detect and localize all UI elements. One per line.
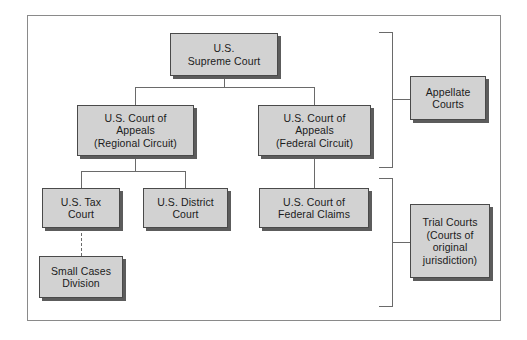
node-trial-courts-line4: jurisdiction) [423,254,477,266]
node-tax-court-text: U.S. Tax Court [58,196,104,221]
node-small-cases-division-text: Small Cases Division [48,265,114,290]
node-supreme-court-text: U.S. Supreme Court [185,42,264,67]
node-appeals-federal-line2: Appeals [295,124,334,136]
node-federal-claims[interactable]: U.S. Court of Federal Claims [259,188,369,228]
node-trial-courts[interactable]: Trial Courts (Courts of original jurisdi… [410,204,490,278]
node-trial-courts-line2: (Courts of [426,229,473,241]
node-appellate-courts-line2: Courts [432,98,464,110]
connector-federal-to-claims [314,156,315,188]
connector-to-tax-court [81,171,82,188]
node-federal-claims-text: U.S. Court of Federal Claims [275,196,353,221]
node-federal-claims-line1: U.S. Court of [283,196,345,208]
connector-appeals-split-bar [135,87,314,88]
node-supreme-court-line2: Supreme Court [188,55,261,67]
node-supreme-court[interactable]: U.S. Supreme Court [170,33,278,76]
bracket-appellate [379,32,393,168]
node-appeals-regional-line3: (Regional Circuit) [94,137,177,149]
bracket-appellate-stem [393,99,410,100]
node-trial-courts-line3: original [433,241,468,253]
node-appeals-regional-line1: U.S. Court of [104,112,166,124]
node-appeals-regional-text: U.S. Court of Appeals (Regional Circuit) [91,112,180,150]
node-district-court[interactable]: U.S. District Court [143,188,228,228]
court-hierarchy-diagram: U.S. Supreme Court U.S. Court of Appeals… [0,0,527,340]
node-appeals-regional-line2: Appeals [116,124,155,136]
node-tax-court-line2: Court [68,208,94,220]
node-appeals-federal-text: U.S. Court of Appeals (Federal Circuit) [273,112,356,150]
connector-tax-to-small-cases [81,228,82,256]
node-appeals-federal[interactable]: U.S. Court of Appeals (Federal Circuit) [258,105,371,156]
connector-regional-to-split [135,156,136,171]
node-federal-claims-line2: Federal Claims [278,208,350,220]
node-tax-court[interactable]: U.S. Tax Court [42,188,120,228]
node-district-court-line2: Court [172,208,198,220]
node-trial-courts-line1: Trial Courts [422,216,477,228]
bracket-trial [379,178,393,307]
node-appellate-courts[interactable]: Appellate Courts [410,76,486,120]
connector-to-federal-appeals [314,87,315,105]
node-appeals-federal-line3: (Federal Circuit) [276,137,353,149]
node-appeals-regional[interactable]: U.S. Court of Appeals (Regional Circuit) [77,105,194,156]
diagram-frame: U.S. Supreme Court U.S. Court of Appeals… [27,15,501,321]
node-appeals-federal-line1: U.S. Court of [284,112,346,124]
node-appellate-courts-line1: Appellate [426,86,471,98]
node-appellate-courts-text: Appellate Courts [423,86,474,111]
node-tax-court-line1: U.S. Tax [61,196,101,208]
node-small-cases-line1: Small Cases [51,265,111,277]
node-small-cases-division[interactable]: Small Cases Division [39,256,123,298]
connector-to-regional-appeals [135,87,136,105]
node-small-cases-line2: Division [62,277,100,289]
bracket-trial-stem [393,242,410,243]
node-supreme-court-line1: U.S. [214,42,235,54]
connector-trial-split-bar [81,171,186,172]
connector-to-district-court [185,171,186,188]
node-trial-courts-text: Trial Courts (Courts of original jurisdi… [419,216,480,266]
node-district-court-text: U.S. District Court [154,196,217,221]
node-district-court-line1: U.S. District [157,196,214,208]
